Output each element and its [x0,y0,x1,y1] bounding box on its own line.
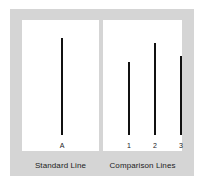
comparison-lines-panel: 1 2 3 Comparison Lines [103,20,182,171]
comparison-lines-plate: 1 2 3 [103,20,182,151]
asch-line-judgment-figure: A Standard Line 1 2 3 Comparison Lines [0,0,206,186]
standard-line-label-A: A [55,141,69,150]
standard-panel-caption: Standard Line [22,161,99,171]
comparison-line-3 [180,56,182,135]
standard-line-panel: A Standard Line [22,20,99,171]
comparison-line-label-1: 1 [122,141,136,150]
comparison-line-label-3: 3 [174,141,188,150]
comparison-line-2 [154,43,156,135]
standard-line-plate: A [22,20,99,151]
figure-frame: A Standard Line 1 2 3 Comparison Lines [10,9,194,176]
comparison-line-label-2: 2 [148,141,162,150]
comparison-panel-caption: Comparison Lines [103,161,182,171]
standard-line-A [61,38,63,135]
comparison-line-1 [128,62,130,135]
